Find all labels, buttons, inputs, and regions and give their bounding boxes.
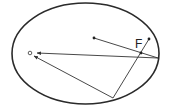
labels-group: F [135, 37, 142, 51]
point-upper-right [148, 38, 151, 41]
point-f [140, 52, 143, 55]
ellipse-outline [12, 3, 159, 104]
segment-line [34, 56, 113, 98]
segment-line [113, 39, 149, 98]
segment-line [94, 38, 158, 58]
label-f: F [135, 37, 142, 51]
ellipse-diagram: F [0, 0, 170, 111]
point-inner [93, 37, 96, 40]
point-o [28, 51, 32, 55]
points-group [28, 37, 150, 55]
